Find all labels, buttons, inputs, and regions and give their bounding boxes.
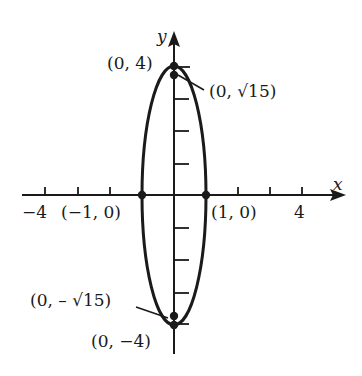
x-tick-label-4: 4 bbox=[294, 202, 305, 222]
point-top-vertex bbox=[170, 62, 178, 70]
x-tick-label-neg4: −4 bbox=[22, 202, 47, 222]
x-axis bbox=[22, 187, 346, 201]
ellipse-diagram: y x −4 4 (0, 4) (0, √15) (−1, 0) (1, 0) … bbox=[0, 0, 362, 376]
point-left-covertex bbox=[138, 191, 146, 199]
label-bottom-focus: (0, – √15) bbox=[30, 290, 111, 310]
leader-line-bottom-focus bbox=[136, 307, 168, 318]
point-bottom-focus bbox=[170, 312, 178, 320]
point-right-covertex bbox=[202, 191, 210, 199]
label-right-covertex: (1, 0) bbox=[211, 202, 257, 222]
label-bottom-vertex: (0, −4) bbox=[91, 331, 151, 351]
label-top-focus: (0, √15) bbox=[209, 81, 276, 101]
y-axis-label: y bbox=[156, 26, 167, 46]
point-top-focus bbox=[170, 71, 178, 79]
label-top-vertex: (0, 4) bbox=[107, 53, 153, 73]
label-left-covertex: (−1, 0) bbox=[61, 202, 121, 222]
point-bottom-vertex bbox=[170, 321, 178, 329]
x-axis-label: x bbox=[333, 174, 343, 194]
